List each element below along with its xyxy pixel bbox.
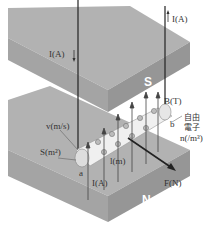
label-density: n(/m³)	[180, 133, 203, 143]
n-pole-label: N	[142, 193, 151, 207]
label-end-b: b	[170, 119, 175, 129]
label-force: F(N)	[164, 178, 182, 188]
label-length: l(m)	[110, 156, 126, 166]
s-pole-label: S	[144, 75, 152, 89]
label-current-bottom: I(A)	[92, 178, 108, 188]
magnet-force-diagram: S N	[0, 0, 224, 239]
label-end-a: a	[79, 168, 83, 178]
label-field: B(T)	[164, 96, 182, 106]
label-area: S(m²)	[40, 147, 61, 157]
label-free-electron-1: 自由	[184, 112, 200, 122]
label-velocity: v(m/s)	[46, 121, 70, 131]
label-current-top: I(A)	[172, 14, 188, 24]
label-current-left: I(A)	[49, 49, 65, 59]
label-free-electron-2: 電子	[184, 123, 200, 132]
